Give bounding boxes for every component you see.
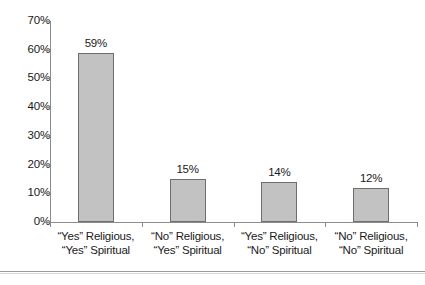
x-axis-category-line: “No” Religious, — [142, 230, 234, 244]
x-tick-mark — [142, 222, 143, 227]
x-axis-category-label: “No” Religious,“Yes” Spiritual — [142, 230, 234, 257]
x-axis-category-line: “No” Spiritual — [234, 244, 326, 258]
bar — [78, 53, 114, 222]
x-axis-category-label: “Yes” Religious,“Yes” Spiritual — [50, 230, 142, 257]
x-axis-category-line: “Yes” Religious, — [234, 230, 326, 244]
bars-layer — [50, 21, 417, 222]
x-axis-category-line: “No” Spiritual — [325, 244, 417, 258]
bar-chart: 0%10%20%30%40%50%60%70% 59%15%14%12% “Ye… — [0, 0, 425, 285]
y-tick-label: 10% — [10, 187, 50, 199]
y-tick-label: 50% — [10, 72, 50, 84]
bar-value-label: 14% — [249, 167, 309, 179]
bar — [170, 179, 206, 222]
footer-divider — [0, 271, 425, 272]
bar — [261, 182, 297, 222]
x-axis-category-label: “No” Religious,“No” Spiritual — [325, 230, 417, 257]
x-tick-mark — [50, 222, 51, 227]
x-axis-category-line: “Yes” Spiritual — [50, 244, 142, 258]
x-tick-mark — [234, 222, 235, 227]
y-tick-label: 60% — [10, 44, 50, 56]
x-axis-category-line: “No” Religious, — [325, 230, 417, 244]
bar — [353, 188, 389, 222]
bar-value-label: 59% — [66, 38, 126, 50]
footer-divider-shadow — [0, 273, 425, 274]
bar-value-label: 15% — [158, 164, 218, 176]
x-axis-category-label: “Yes” Religious,“No” Spiritual — [234, 230, 326, 257]
x-axis-category-line: “Yes” Religious, — [50, 230, 142, 244]
y-tick-label: 40% — [10, 101, 50, 113]
y-tick-label: 30% — [10, 130, 50, 142]
y-tick-label: 70% — [10, 15, 50, 27]
y-tick-label: 0% — [10, 216, 50, 228]
y-tick-label: 20% — [10, 159, 50, 171]
x-axis-category-line: “Yes” Spiritual — [142, 244, 234, 258]
bar-value-label: 12% — [341, 173, 401, 185]
x-tick-mark — [417, 222, 418, 227]
x-tick-mark — [325, 222, 326, 227]
